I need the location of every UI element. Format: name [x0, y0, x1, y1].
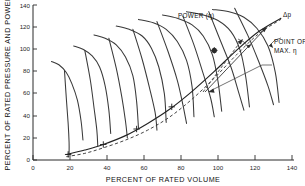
x-tick-label: 120 [250, 164, 261, 171]
power-curve-1 [64, 70, 69, 154]
y-tick-label: 60 [23, 89, 30, 96]
x-tick-label: 0 [31, 164, 35, 171]
x-tick-label: 100 [213, 164, 224, 171]
y-tick-label: 140 [20, 2, 31, 9]
delta-p-curve-6 [163, 15, 222, 111]
max-eta-leader-line [212, 65, 272, 90]
system-curve-solid [66, 18, 281, 154]
power-direction-arrow [203, 41, 241, 92]
fan-performance-chart: 0 20 40 60 80 100 120 140 0 20 40 60 80 [0, 0, 305, 186]
delta-p-curve-7 [187, 12, 250, 107]
power-curve-6 [183, 16, 214, 117]
x-tick-label: 80 [178, 164, 185, 171]
x-tick-label: 60 [141, 164, 148, 171]
max-eta-annotation-label-line2: MAX. η [274, 47, 297, 55]
power-curve-3 [109, 38, 128, 138]
y-tick-label: 40 [23, 112, 30, 119]
y-tick-label: 80 [23, 67, 30, 74]
delta-p-leader-arrowhead [269, 43, 273, 48]
max-efficiency-point [212, 48, 217, 53]
power-annotation-label: POWER (η) [178, 12, 214, 20]
x-tick-labels: 0 20 40 60 80 100 120 140 [31, 164, 297, 171]
y-tick-label: 100 [20, 45, 31, 52]
power-curve-2 [85, 50, 98, 145]
y-tick-labels: 0 20 40 60 80 100 120 140 [20, 2, 31, 163]
max-efficiency-dot [212, 48, 217, 53]
y-tick-label: 0 [27, 156, 31, 163]
annotation-text-group: POWER (η) Δp POINT OF MAX. η [178, 11, 305, 55]
delta-p-curve-3 [94, 35, 138, 128]
x-tick-label: 20 [67, 164, 74, 171]
x-tick-label: 40 [104, 164, 111, 171]
max-eta-annotation-label-line1: POINT OF [274, 38, 305, 45]
y-tick-label: 120 [20, 23, 31, 30]
y-tick-label: 20 [23, 134, 30, 141]
delta-p-annotation-label: Δp [283, 11, 292, 19]
x-tick-label: 140 [287, 164, 298, 171]
y-ticks-group [33, 5, 37, 160]
data-curves-layer [52, 8, 281, 156]
x-axis-title: PERCENT OF RATED VOLUME [106, 175, 221, 184]
power-curve-8 [235, 8, 274, 104]
axes-group [33, 5, 294, 160]
power-curve-4 [133, 29, 157, 130]
delta-p-curve-5 [138, 19, 194, 116]
chart-svg: 0 20 40 60 80 100 120 140 0 20 40 60 80 [0, 0, 305, 186]
annotation-leaders [203, 27, 281, 93]
delta-p-curve-1 [52, 61, 83, 140]
y-axis-title: PERCENT OF RATED PRESSURE AND POWER [3, 0, 12, 171]
